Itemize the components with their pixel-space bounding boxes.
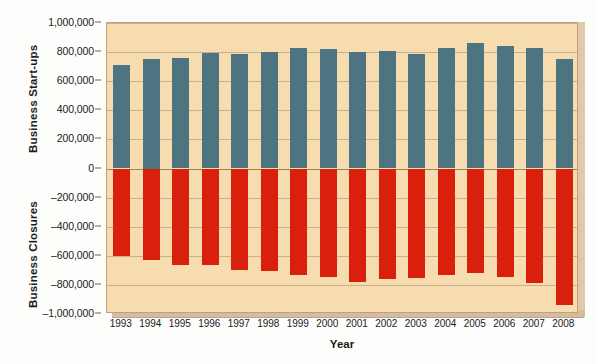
x-axis-tick-label: 2005: [464, 318, 486, 329]
bar-group: [143, 23, 160, 312]
y-axis-tick-label: 1,000,000: [48, 16, 94, 28]
y-axis-tick-label: –800,000: [51, 278, 94, 290]
bar-closures: [349, 169, 366, 282]
bar-closures: [438, 169, 455, 276]
bar-group: [526, 23, 543, 312]
y-axis-tick-mark: [95, 22, 101, 23]
bar-startups: [438, 48, 455, 169]
bar-startups: [202, 53, 219, 169]
x-axis-tick-label: 1995: [169, 318, 191, 329]
bar-startups: [231, 54, 248, 169]
plot-area: [106, 22, 578, 313]
y-axis-tick-mark: [95, 313, 101, 314]
y-axis-tick-label: –200,000: [51, 191, 94, 203]
x-axis-tick-label: 1994: [139, 318, 161, 329]
bar-group: [202, 23, 219, 312]
bar-closures: [526, 169, 543, 283]
y-axis-tick-labels: 1,000,000800,000600,000400,000200,0000–2…: [0, 0, 104, 364]
bar-group: [261, 23, 278, 312]
bar-closures: [172, 169, 189, 265]
bar-closures: [556, 169, 573, 306]
bar-closures: [231, 169, 248, 271]
bar-closures: [467, 169, 484, 274]
y-axis-tick-mark: [95, 51, 101, 52]
y-axis-tick-mark: [95, 196, 101, 197]
bar-closures: [320, 169, 337, 277]
bar-startups: [379, 51, 396, 168]
bar-group: [231, 23, 248, 312]
y-axis-tick-label: –400,000: [51, 220, 94, 232]
y-axis-tick-label: 600,000: [57, 74, 94, 86]
bar-group: [497, 23, 514, 312]
y-axis-tick-mark: [95, 254, 101, 255]
y-axis-tick-mark: [95, 138, 101, 139]
bar-closures: [408, 169, 425, 279]
x-axis-tick-label: 2002: [375, 318, 397, 329]
bar-startups: [261, 52, 278, 168]
bar-chart: Business Start-ups Business Closures 1,0…: [0, 0, 596, 364]
x-axis-tick-label: 2000: [316, 318, 338, 329]
x-axis-tick-label: 1997: [228, 318, 250, 329]
bar-startups: [143, 59, 160, 168]
bar-group: [349, 23, 366, 312]
y-axis-tick-label: 800,000: [57, 45, 94, 57]
bar-group: [438, 23, 455, 312]
bar-startups: [467, 43, 484, 168]
x-axis-tick-label: 1998: [257, 318, 279, 329]
bar-startups: [526, 48, 543, 169]
bar-startups: [320, 49, 337, 168]
y-axis-tick-mark: [95, 225, 101, 226]
bar-group: [320, 23, 337, 312]
x-axis-tick-labels: 1993199419951996199719981999200020012002…: [106, 318, 578, 336]
y-axis-tick-mark: [95, 283, 101, 284]
bar-startups: [113, 65, 130, 168]
bar-startups: [290, 48, 307, 168]
y-axis-tick-label: 200,000: [57, 132, 94, 144]
y-axis-tick-mark: [95, 109, 101, 110]
bar-closures: [290, 169, 307, 276]
bar-startups: [172, 58, 189, 169]
bar-group: [172, 23, 189, 312]
x-axis-tick-label: 1996: [198, 318, 220, 329]
y-axis-tick-mark: [95, 80, 101, 81]
bar-closures: [143, 169, 160, 261]
bar-startups: [497, 46, 514, 169]
bar-group: [467, 23, 484, 312]
bar-closures: [202, 169, 219, 266]
bar-closures: [497, 169, 514, 277]
y-axis-tick-label: –1,000,000: [42, 307, 94, 319]
bar-group: [290, 23, 307, 312]
x-axis-tick-label: 2007: [523, 318, 545, 329]
x-axis-tick-label: 2006: [493, 318, 515, 329]
x-axis-tick-label: 1999: [287, 318, 309, 329]
plot-bevel-right: [578, 22, 585, 314]
bar-group: [379, 23, 396, 312]
y-axis-tick-label: –600,000: [51, 249, 94, 261]
x-axis-tick-label: 2001: [346, 318, 368, 329]
bar-group: [113, 23, 130, 312]
bar-startups: [349, 52, 366, 168]
x-axis-tick-label: 1993: [110, 318, 132, 329]
x-axis-tick-label: 2008: [552, 318, 574, 329]
bar-startups: [408, 54, 425, 169]
bar-closures: [261, 169, 278, 272]
y-axis-tick-label: 0: [88, 162, 94, 174]
bars-layer: [107, 23, 577, 312]
x-axis-tick-label: 2004: [434, 318, 456, 329]
bar-startups: [556, 59, 573, 169]
bar-group: [556, 23, 573, 312]
bar-group: [408, 23, 425, 312]
x-axis-tick-label: 2003: [405, 318, 427, 329]
x-axis-title: Year: [106, 338, 578, 350]
y-axis-tick-mark: [95, 167, 101, 168]
bar-closures: [379, 169, 396, 280]
bar-closures: [113, 169, 130, 256]
y-axis-tick-label: 400,000: [57, 103, 94, 115]
